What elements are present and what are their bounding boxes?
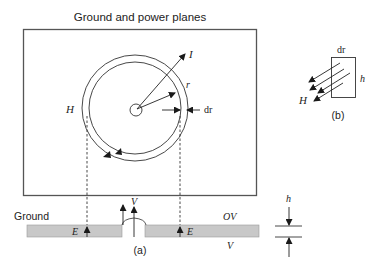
- inner-ring: [89, 62, 181, 154]
- diagram-title: Ground and power planes: [74, 11, 207, 23]
- ground-label: Ground: [14, 210, 49, 222]
- separation-label: h: [286, 193, 291, 204]
- ring-width-label: dr: [204, 104, 213, 115]
- radius-label: r: [186, 79, 190, 90]
- current-label: I: [188, 48, 194, 60]
- panel-b-field-arrow-1: [309, 63, 340, 82]
- plane-top-view-frame: [24, 30, 257, 196]
- ground-power-plane-diagram: Ground and power planes I r dr H V E E G…: [0, 0, 381, 270]
- panel-b-field-arrow-4: [314, 83, 343, 101]
- magnetic-field-label: H: [65, 103, 75, 115]
- panel-b-label: (b): [332, 109, 345, 121]
- efield-label-left: E: [71, 226, 78, 237]
- outer-ring: [82, 55, 188, 161]
- efield-label-right: E: [186, 226, 193, 237]
- field-direction-arrow-inner: [115, 148, 122, 155]
- panel-a-label: (a): [134, 244, 147, 256]
- panel-b-field-arrow-3: [318, 73, 350, 93]
- voltage-top-label: OV: [223, 211, 238, 222]
- field-direction-arrow-outer: [103, 151, 111, 158]
- plane-section-right: [145, 225, 259, 237]
- panel-b-width-label: dr: [337, 44, 346, 55]
- panel-b-field-label: H: [298, 94, 308, 106]
- voltage-bottom-label: V: [227, 240, 235, 251]
- via-voltage-label: V: [131, 196, 139, 207]
- radius-arrow: [137, 93, 175, 109]
- panel-b-height-label: h: [360, 73, 365, 84]
